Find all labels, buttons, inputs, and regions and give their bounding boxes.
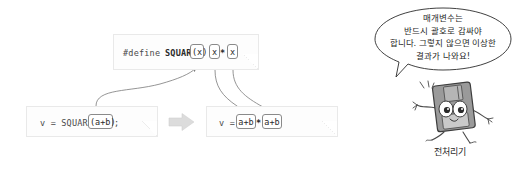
macro-body-left-token: x: [209, 44, 220, 59]
speech-line-2: 반드시 괄호로 감싸야: [374, 25, 512, 38]
speech-line-1: 매개변수는: [374, 12, 512, 25]
define-directive: #define: [123, 48, 160, 58]
speech-bubble-text: 매개변수는 반드시 괄호로 감싸야 합니다. 그렇지 않으면 이상한 결과가 나…: [374, 12, 512, 62]
mascot-caption: 전처리기: [400, 145, 500, 158]
expanded-operator: *: [256, 118, 261, 128]
macro-body-right-token: x: [227, 44, 238, 59]
note-fold-corner: [322, 121, 338, 137]
floppy-disk-character-icon: [408, 78, 494, 144]
macro-body-operator: *: [220, 48, 225, 58]
source-argument-token: (a+b): [88, 114, 113, 129]
source-code-suffix: ;: [114, 118, 119, 128]
expanded-right-token: a+b: [262, 114, 282, 129]
note-fold-corner: [142, 121, 158, 137]
speech-line-4: 결과가 나와요!: [374, 50, 512, 63]
arrow-arg-to-param: [96, 68, 196, 106]
block-arrow-right-icon: [168, 112, 196, 132]
macro-param-token: (x): [190, 44, 204, 59]
diagram-canvas: #define SQUARE (x) x * x v = SQUARE (a+b…: [0, 0, 518, 170]
expanded-code-prefix: v =: [219, 118, 235, 128]
speech-line-3: 합니다. 그렇지 않으면 이상한: [374, 37, 512, 50]
note-fold-corner: [243, 54, 259, 70]
source-code-prefix: v = SQUARE: [40, 118, 93, 128]
expanded-left-token: a+b: [236, 114, 256, 129]
